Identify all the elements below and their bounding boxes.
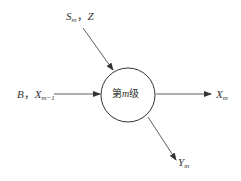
arrow-bottom-output <box>148 117 176 160</box>
stage-node-label: 第m级 <box>112 89 139 99</box>
left-input-label: B，Xm−1 <box>17 89 55 102</box>
sub-m-minus-1: m−1 <box>41 94 54 102</box>
stage-prefix: 第 <box>112 88 122 99</box>
top-input-label: Sm，Z <box>66 11 94 24</box>
right-output-label: Xm <box>216 89 228 102</box>
sub-m: m <box>223 94 228 102</box>
bottom-output-label: Ym <box>178 157 189 170</box>
var-b: B <box>17 88 24 100</box>
stage-suffix: 级 <box>129 88 139 99</box>
sub-m: m <box>184 162 189 170</box>
var-x: X <box>216 88 223 100</box>
arrow-top-input <box>83 28 113 70</box>
var-z: Z <box>88 10 94 22</box>
separator: ， <box>24 88 35 100</box>
separator: ， <box>77 10 88 22</box>
